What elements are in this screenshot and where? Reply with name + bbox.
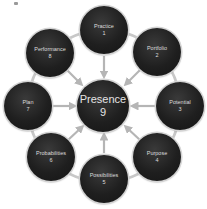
node-probabilities: Probabilities 6 (27, 133, 75, 181)
node-presence: Presence 9 (77, 80, 129, 132)
node-number: 1 (102, 30, 105, 37)
node-label: Potential (169, 99, 190, 106)
node-label: Plan (22, 99, 33, 106)
node-performance: Performance 8 (26, 29, 74, 77)
node-label: Probabilities (36, 150, 66, 157)
node-label: Presence (80, 93, 126, 106)
node-label: Portfolio (147, 45, 167, 52)
node-plan: Plan 7 (4, 82, 52, 130)
node-number: 7 (26, 106, 29, 113)
node-potential: Potential 3 (156, 82, 204, 130)
node-number: 8 (48, 53, 51, 60)
diagram-canvas: Presence 9 Practice 1 Portfolio 2 Potent… (0, 0, 207, 209)
node-number: 5 (102, 179, 105, 186)
node-number: 6 (49, 157, 52, 164)
node-practice: Practice 1 (80, 6, 128, 54)
node-number: 3 (178, 106, 181, 113)
node-number: 9 (100, 106, 106, 119)
node-label: Performance (34, 46, 66, 53)
node-purpose: Purpose 4 (133, 133, 181, 181)
node-label: Possibilities (90, 172, 119, 179)
node-label: Practice (94, 23, 114, 30)
node-number: 4 (155, 157, 158, 164)
node-portfolio: Portfolio 2 (133, 28, 181, 76)
node-possibilities: Possibilities 5 (80, 155, 128, 203)
node-label: Purpose (147, 150, 168, 157)
node-number: 2 (155, 52, 158, 59)
